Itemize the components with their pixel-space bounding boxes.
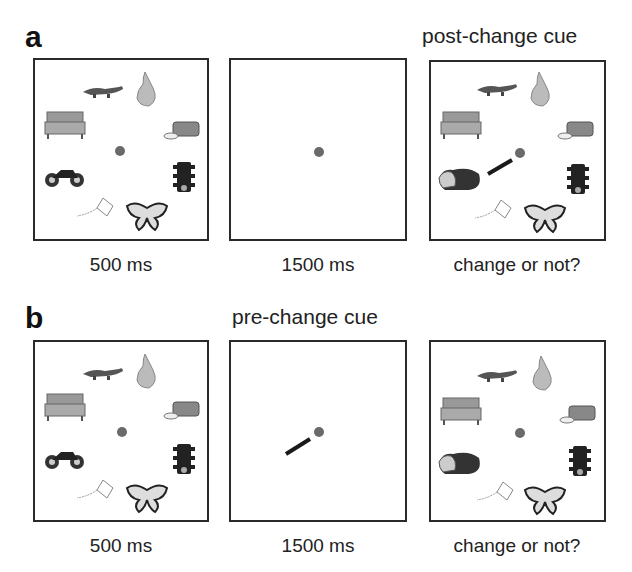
fixation-dot <box>314 147 324 157</box>
kite-icon <box>77 480 113 498</box>
kite-icon <box>77 198 113 216</box>
post-change-cue-title: post-change cue <box>422 25 577 46</box>
sofa-icon <box>45 112 85 139</box>
frog-icon <box>439 453 480 474</box>
kite-icon <box>475 200 511 218</box>
butterfly-icon <box>127 203 167 230</box>
frog-icon <box>439 169 480 190</box>
pre-change-cue-title: pre-change cue <box>232 306 378 327</box>
caption-a-500ms: 500 ms <box>31 255 211 274</box>
motorcycle-icon <box>45 452 84 469</box>
panel-label-b: b <box>25 303 43 333</box>
frame-a-delay <box>229 58 407 241</box>
caption-b-change-or-not: change or not? <box>427 536 607 555</box>
pear-icon <box>137 354 155 388</box>
cue-line <box>286 439 310 454</box>
bread-icon <box>164 122 199 139</box>
bread-icon <box>164 402 199 419</box>
butterfly-icon <box>127 485 167 512</box>
frame-b-memory-array <box>33 340 209 522</box>
butterfly-icon <box>525 205 565 232</box>
pear-icon <box>533 356 551 390</box>
alligator-icon <box>83 86 123 98</box>
sofa-icon <box>45 394 85 421</box>
frame-a-test-array <box>429 60 606 241</box>
alligator-icon <box>477 370 517 382</box>
frame-b-delay-with-cue <box>229 340 407 522</box>
frame-a-memory-array <box>33 58 209 241</box>
bread-icon <box>558 122 593 139</box>
fixation-dot <box>117 427 127 437</box>
caption-b-1500ms: 1500 ms <box>228 536 408 555</box>
butterfly-icon <box>525 487 565 514</box>
caption-a-1500ms: 1500 ms <box>228 255 408 274</box>
panel-label-a: a <box>25 22 42 52</box>
pear-icon <box>531 72 549 106</box>
fixation-dot <box>515 148 525 158</box>
frame-b-test-array <box>429 340 606 522</box>
bread-icon <box>560 406 595 423</box>
caption-a-change-or-not: change or not? <box>427 255 607 274</box>
sofa-icon <box>441 112 481 139</box>
sofa-icon <box>441 398 481 425</box>
traffic-light-icon <box>173 162 195 192</box>
fixation-dot <box>515 428 525 438</box>
fixation-dot <box>314 427 324 437</box>
traffic-light-icon <box>173 444 195 474</box>
alligator-icon <box>83 368 123 380</box>
traffic-light-icon <box>567 164 589 194</box>
kite-icon <box>477 482 513 500</box>
caption-b-500ms: 500 ms <box>31 536 211 555</box>
motorcycle-icon <box>45 170 84 187</box>
fixation-dot <box>115 146 125 156</box>
cue-line <box>488 160 512 174</box>
pear-icon <box>137 72 155 106</box>
alligator-icon <box>477 84 517 96</box>
traffic-light-icon <box>569 446 591 476</box>
